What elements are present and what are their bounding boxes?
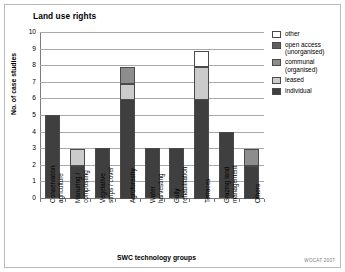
legend-item[interactable]: open access(unorganised) [272,41,340,56]
legend-label: open access(unorganised) [285,41,324,56]
x-category-label: Agroforestry [129,168,137,203]
x-category-label: Grazing landmanagement [223,166,239,203]
figure-container: Land use rights No. of case studies 0123… [0,0,345,272]
legend-swatch-icon [272,59,281,66]
x-tick [65,199,66,202]
legend-swatch-icon [272,88,281,95]
y-tick-label: 2 [16,162,36,169]
gridline [40,98,264,99]
x-tick [40,199,41,202]
bar-segment [244,149,259,166]
y-tick-label: 7 [16,79,36,86]
legend-item[interactable]: individual [272,87,340,95]
legend-label: communal(organised) [285,58,317,73]
y-tick-label: 9 [16,45,36,52]
x-tick [189,199,190,202]
x-category-label: Others [254,184,262,203]
y-tick-label: 8 [16,62,36,69]
chart-title: Land use rights [33,11,96,21]
bar-segment [120,84,135,101]
legend-item[interactable]: communal(organised) [272,58,340,73]
gridline [40,65,264,66]
x-category-label: Conservationagriculture [49,165,65,203]
legend-item[interactable]: other [272,30,340,38]
x-tick [115,199,116,202]
y-tick-label: 1 [16,178,36,185]
legend-swatch-icon [272,31,281,38]
y-tick-label: 4 [16,128,36,135]
x-category-label: Manuring /composting [74,170,90,203]
y-tick-label: 6 [16,95,36,102]
gridline [40,115,264,116]
x-tick [140,199,141,202]
x-category-label: Vegetativestrips / cover [99,167,115,203]
y-tick-label: 3 [16,145,36,152]
bar-segment [70,149,85,166]
x-category-label: Waterharvesting [149,174,165,204]
x-category-label: Terraces [204,178,212,203]
bar-terraces[interactable] [194,51,209,198]
bar-segment [194,51,209,68]
legend-item[interactable]: leased [272,76,340,84]
x-category-label: Gullyrehabilitation [173,167,189,203]
y-tick-label: 5 [16,112,36,119]
gridline [40,82,264,83]
x-tick [90,199,91,202]
y-tick-label: 0 [16,195,36,202]
x-tick [239,199,240,202]
y-tick-label: 10 [16,29,36,36]
x-tick [264,199,265,202]
credit-text: WOCAT 2007 [304,258,335,263]
x-tick [214,199,215,202]
bar-segment [194,67,209,100]
x-axis-title: SWC technology groups [117,254,196,261]
legend: otheropen access(unorganised)communal(or… [272,30,340,97]
gridline [40,32,264,33]
legend-label: individual [285,87,312,95]
legend-label: other [285,30,300,38]
legend-swatch-icon [272,42,281,49]
legend-swatch-icon [272,77,281,84]
gridline [40,49,264,50]
bar-segment [120,67,135,84]
legend-label: leased [285,76,304,84]
